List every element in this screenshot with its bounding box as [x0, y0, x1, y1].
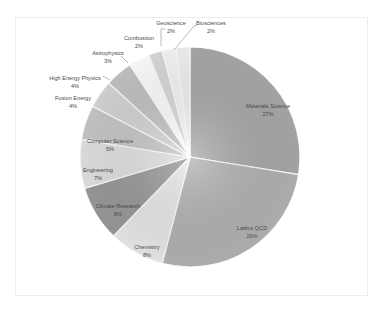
data-label-high-energy-physics: High Energy Physics4%: [49, 75, 101, 89]
data-label-geoscience: Geoscience2%: [156, 20, 186, 34]
data-label-fusion-energy: Fusion Energy4%: [55, 95, 91, 109]
leader-line: [174, 25, 197, 50]
leader-line: [103, 76, 110, 80]
pie-slices: [80, 47, 300, 267]
data-label-astrophysics: Astrophysics3%: [92, 50, 124, 64]
pie-shading: [80, 47, 300, 267]
data-label-biosciences: Biosciences2%: [196, 20, 226, 34]
leader-line: [121, 56, 128, 63]
pie-chart: Materials Science27%Lattice QCD26%Chemis…: [0, 0, 380, 311]
data-label-combustion: Combustion2%: [124, 35, 154, 49]
leader-line: [161, 29, 165, 46]
